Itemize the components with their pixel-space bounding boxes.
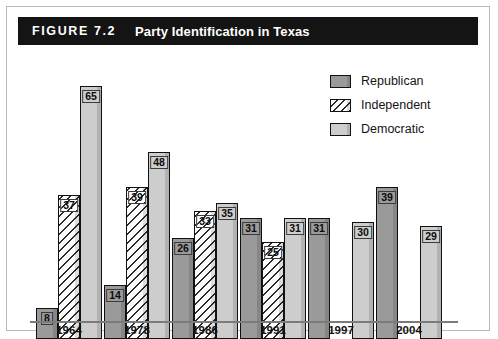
bar-1978-democratic: 48: [148, 152, 170, 339]
bar-value-1986-independent: 33: [196, 215, 214, 228]
bar-value-1986-republican: 26: [174, 242, 192, 255]
bar-value-2004-republican: 39: [378, 191, 396, 204]
bar-1986-democratic: 35: [216, 203, 238, 339]
bar-value-1978-democratic: 48: [150, 156, 168, 169]
bar-value-1986-democratic: 35: [218, 207, 236, 220]
bar-value-1997-republican: 31: [310, 222, 328, 235]
x-axis-line: [30, 321, 458, 323]
bar-value-1991-republican: 31: [242, 222, 260, 235]
bar-value-1978-independent: 39: [128, 191, 146, 204]
bar-value-2004-democratic: 29: [422, 230, 440, 243]
bar-1964-independent: 37: [58, 195, 80, 339]
bar-value-1964-independent: 37: [60, 199, 78, 212]
bar-value-1978-republican: 14: [106, 289, 124, 302]
chart-plot-area: 8 37 65 14 39 48 26 33: [0, 0, 498, 339]
x-axis-label-2004: 2004: [369, 324, 449, 336]
bar-1986-independent: 33: [194, 211, 216, 339]
bar-value-1964-democratic: 65: [82, 90, 100, 103]
bar-1964-democratic: 65: [80, 86, 102, 339]
bar-2004-republican: 39: [376, 187, 398, 339]
bar-1978-independent: 39: [126, 187, 148, 339]
bar-value-1991-democratic: 31: [286, 222, 304, 235]
figure-container: FIGURE 7.2 Party Identification in Texas…: [0, 0, 498, 339]
bar-value-1991-independent: 25: [264, 246, 282, 259]
bar-value-1997-democratic: 30: [354, 226, 372, 239]
